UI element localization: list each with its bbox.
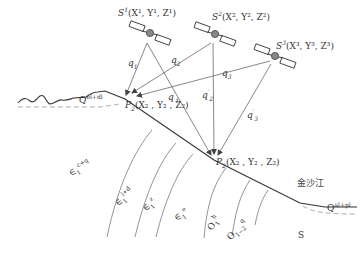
quaternary-base-top: [18, 104, 120, 107]
point-label-p1: P2(X₂ , Y₂ , Z₂): [125, 100, 189, 110]
range-label-q1: q1: [128, 58, 138, 68]
range-label-q3: q3: [222, 68, 232, 78]
quaternary-label-top: Qel+dl: [79, 95, 103, 105]
stratum-label-s: S: [298, 230, 304, 240]
range-label-q2: q2: [171, 55, 181, 65]
satellite-label-1: S1(X¹, Y¹, Z¹): [118, 8, 176, 18]
range-label-q3-prime: q′3: [247, 110, 258, 120]
river-label: 金沙江: [297, 178, 324, 188]
diagram-canvas: S1(X¹, Y¹, Z¹) S2(X², Y², Z²) S3(X³, Y³,…: [0, 0, 363, 258]
satellite-icon-1: [129, 21, 171, 45]
quaternary-label-river: Qal+pl: [327, 203, 351, 213]
satellite-icon-2: [194, 22, 236, 46]
range-label-q2-prime: q′2: [202, 90, 213, 100]
satellite-label-2: S2(X², Y², Z²): [212, 12, 270, 22]
point-label-p2: P2(X₂ , Y₂ , Z₂): [216, 157, 280, 167]
signal-lines-p1: [126, 43, 270, 96]
satellite-label-3: S3(X³, Y³, Z³): [276, 41, 334, 51]
